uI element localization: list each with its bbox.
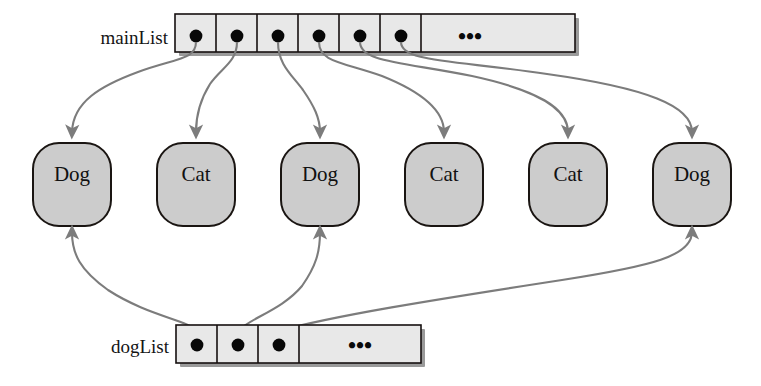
object-node[interactable]: Cat (529, 143, 607, 226)
main-list-label: mainList (100, 27, 168, 48)
diagram-canvas: ••• mainList Dog Cat Dog (0, 0, 761, 386)
edge-doglist-1-to-node-2 (238, 232, 320, 331)
object-node[interactable]: Dog (653, 143, 731, 226)
edge-mainlist-0-to-node-0 (72, 42, 196, 132)
object-node-label: Cat (181, 162, 210, 186)
main-list-cell-pointer-dot[interactable] (231, 30, 244, 43)
objects-row: Dog Cat Dog Cat Cat Dog (33, 143, 731, 226)
edge-doglist-0-to-node-0 (72, 232, 197, 331)
object-node[interactable]: Dog (281, 143, 359, 226)
object-node-label: Dog (54, 162, 91, 186)
dog-list-ellipsis: ••• (348, 333, 372, 358)
dog-list-cell-pointer-dot[interactable] (232, 339, 245, 352)
main-list-ellipsis: ••• (458, 24, 482, 49)
object-node-label: Dog (302, 162, 339, 186)
main-list-cell-pointer-dot[interactable] (354, 30, 367, 43)
main-list-cell-pointer-dot[interactable] (313, 30, 326, 43)
object-node[interactable]: Dog (33, 143, 111, 226)
main-list-cell-pointer-dot[interactable] (272, 30, 285, 43)
dog-list-label: dogList (111, 336, 170, 357)
edge-doglist-2-to-node-5 (279, 232, 692, 331)
main-list-cell-pointer-dot[interactable] (190, 30, 203, 43)
main-list-group: ••• mainList (100, 14, 579, 56)
dog-list-group: ••• dogList (111, 325, 425, 367)
object-node[interactable]: Cat (405, 143, 483, 226)
object-node[interactable]: Cat (157, 143, 235, 226)
object-node-label: Dog (674, 162, 711, 186)
dog-list-cell-pointer-dot[interactable] (191, 339, 204, 352)
main-list-cell-pointer-dot[interactable] (395, 30, 408, 43)
object-node-label: Cat (429, 162, 458, 186)
dog-list-cell-pointer-dot[interactable] (273, 339, 286, 352)
object-reference-diagram: ••• mainList Dog Cat Dog (0, 0, 761, 386)
dog-list-edges (72, 232, 692, 331)
object-node-label: Cat (553, 162, 582, 186)
